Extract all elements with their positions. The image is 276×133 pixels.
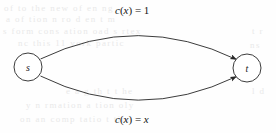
edge-top-arc [41, 36, 237, 60]
edge-top-cost-value: 1 [144, 4, 150, 16]
node-t-label: t [246, 63, 249, 74]
edge-bottom-cost-equals: = [132, 113, 144, 125]
edge-bottom-arc [41, 76, 237, 100]
edge-bottom-cost-value: x [144, 113, 149, 125]
node-s-label: s [26, 62, 30, 73]
edge-top-cost-equals: = [132, 4, 144, 16]
edge-bottom-cost-label: c(x) = x [115, 113, 149, 125]
figure-container: of to the new of en ng a of tion n ro d … [0, 0, 276, 133]
edge-top-cost-label: c(x) = 1 [115, 4, 149, 16]
